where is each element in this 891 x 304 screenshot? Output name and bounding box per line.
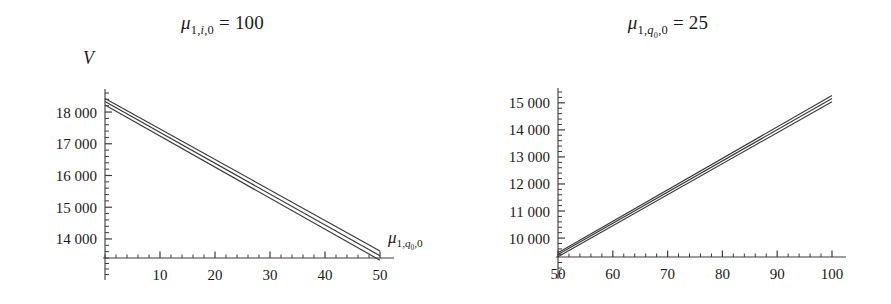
left-plot-canvas: 102030405014 00015 00016 00017 00018 000 [0,0,445,304]
x-tick-label: 80 [715,266,730,282]
x-tick-label: 30 [263,267,278,283]
panel-right: μ1,q0,0 = 25 V μ1,i,0 506070809010010 00… [445,0,891,304]
right-plot-canvas: 506070809010010 00011 00012 00013 00014 … [445,0,891,304]
y-tick-label: 14 000 [56,231,97,247]
x-tick-label: 90 [770,266,785,282]
right-plot-group: 506070809010010 00011 00012 00013 00014 … [509,88,846,282]
x-tick-label: 60 [605,266,620,282]
y-tick-label: 13 000 [509,149,550,165]
data-line-middle [105,102,380,256]
y-tick-label: 15 000 [509,95,550,111]
y-tick-label: 18 000 [56,105,97,121]
data-line-upper [558,96,832,253]
figure-two-line-plots: μ1,i,0 = 100 V μ1,q0,0 102030405014 0001… [0,0,891,304]
y-tick-label: 16 000 [56,168,97,184]
x-tick-label: 20 [208,267,223,283]
x-tick-label: 50 [373,267,388,283]
y-tick-label: 14 000 [509,122,550,138]
x-tick-label: 10 [153,267,168,283]
x-tick-label: 100 [821,266,844,282]
data-line-lower [105,105,380,260]
y-tick-label: 17 000 [56,136,97,152]
y-tick-label: 10 000 [509,231,550,247]
data-line-middle [558,98,832,254]
x-tick-label: 40 [318,267,333,283]
x-tick-label: 70 [660,266,675,282]
y-tick-label: 11 000 [509,204,550,220]
panel-left: μ1,i,0 = 100 V μ1,q0,0 102030405014 0001… [0,0,445,304]
y-tick-label: 15 000 [56,200,97,216]
left-plot-group: 102030405014 00015 00016 00017 00018 000 [56,89,394,283]
y-tick-label: 12 000 [509,176,550,192]
data-line-upper [105,98,380,251]
data-line-lower [558,102,832,257]
